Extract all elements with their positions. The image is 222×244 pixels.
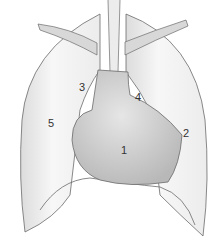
label-1: 1 [121,145,127,156]
label-3: 3 [79,82,85,93]
label-5: 5 [48,118,54,129]
label-4: 4 [135,92,141,103]
heart-lungs-illustration [0,0,222,244]
label-2: 2 [183,128,189,139]
trachea [108,0,120,72]
